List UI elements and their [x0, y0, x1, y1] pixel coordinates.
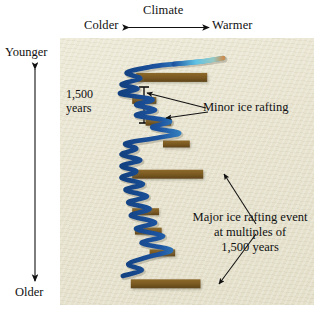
annotation-major-ice-rafting: Major ice rafting event at multiples of … — [189, 210, 311, 255]
annotation-major-line1: Major ice rafting event — [189, 210, 311, 225]
ice-rafting-bar-minor — [163, 141, 190, 148]
callout-arrow-minor-2 — [166, 112, 208, 118]
ice-rafting-bar-major — [131, 279, 201, 288]
figure-root: Climate Colder Warmer Younger Older 1,50… — [0, 0, 328, 321]
annotation-major-line2: at multiples of — [189, 225, 311, 240]
annotation-minor-ice-rafting: Minor ice rafting — [203, 100, 288, 115]
annotation-major-line3: 1,500 years — [189, 240, 311, 255]
climate-axis-title: Climate — [143, 3, 183, 18]
ice-rafting-bar-major — [136, 73, 207, 82]
climate-axis-warmer-label: Warmer — [212, 18, 253, 33]
climate-axis-colder-label: Colder — [84, 18, 119, 33]
diagram-panel: 1,500 years — [60, 38, 314, 305]
time-axis-older-label: Older — [15, 285, 43, 300]
time-axis-younger-label: Younger — [5, 45, 48, 60]
climate-proxy-chart — [60, 38, 314, 305]
